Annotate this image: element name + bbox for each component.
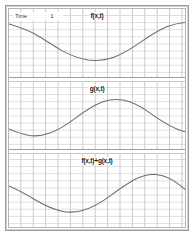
- plot-title-sum: f(x,t)+g(x,t): [9, 157, 185, 165]
- chart-frame[interactable]: f(x,t) Time 1 g(x,t): [5, 5, 189, 231]
- time-label: Time: [13, 12, 41, 21]
- plot-title-sum-text: f(x,t)+g(x,t): [79, 157, 114, 165]
- plot-panel-f[interactable]: f(x,t) Time 1: [9, 9, 185, 77]
- curve-path-g: [9, 99, 185, 135]
- plot-panel-sum[interactable]: f(x,t)+g(x,t): [9, 153, 185, 227]
- curve-path-sum: [9, 174, 185, 212]
- chart-sheet: f(x,t) Time 1 g(x,t): [0, 0, 194, 241]
- chart-frame-inner: f(x,t) Time 1 g(x,t): [8, 8, 186, 228]
- plot-title-f-text: f(x,t): [89, 12, 106, 20]
- curve-path-f: [9, 22, 185, 60]
- time-readout[interactable]: Time 1: [13, 12, 63, 21]
- plot-panel-g[interactable]: g(x,t): [9, 81, 185, 149]
- plot-title-g: g(x,t): [9, 85, 185, 93]
- time-value[interactable]: 1: [41, 12, 63, 21]
- plot-title-g-text: g(x,t): [88, 85, 107, 93]
